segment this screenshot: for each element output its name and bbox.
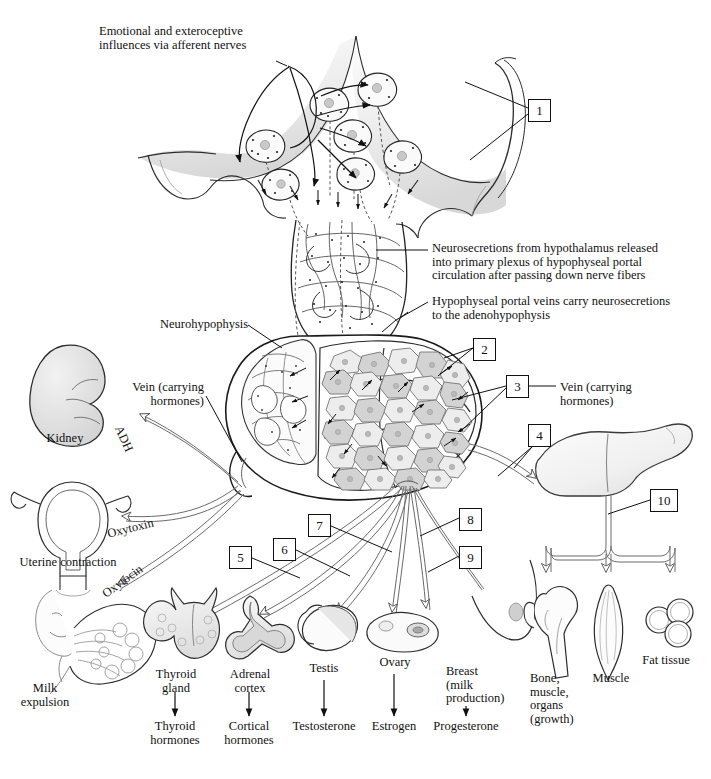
hormone-output-thyroid-hormones: Thyroid hormones — [137, 720, 213, 747]
number-box-8[interactable]: 8 — [459, 508, 482, 531]
number-box-7[interactable]: 7 — [308, 514, 331, 537]
number-box-1[interactable]: 1 — [528, 99, 551, 122]
number-box-4[interactable]: 4 — [528, 424, 551, 447]
diagram-canvas: Emotional and exteroceptive influences v… — [0, 0, 711, 779]
number-box-3[interactable]: 3 — [506, 375, 529, 398]
number-box-10[interactable]: 10 — [650, 489, 678, 512]
hormone-output-arrows — [0, 0, 711, 779]
number-box-2[interactable]: 2 — [473, 338, 496, 361]
number-box-5[interactable]: 5 — [229, 546, 252, 569]
hormone-output-progesterone: Progesterone — [414, 720, 518, 734]
number-box-6[interactable]: 6 — [273, 538, 296, 561]
number-box-9[interactable]: 9 — [459, 546, 482, 569]
